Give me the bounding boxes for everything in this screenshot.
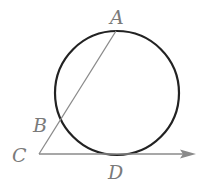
label-a: A	[108, 6, 124, 28]
label-b: B	[32, 114, 47, 136]
geometry-diagram: A B C D	[0, 0, 207, 184]
label-d: D	[107, 161, 123, 183]
label-c: C	[12, 144, 27, 166]
secant-line-ca	[39, 31, 116, 154]
circle	[55, 31, 179, 155]
